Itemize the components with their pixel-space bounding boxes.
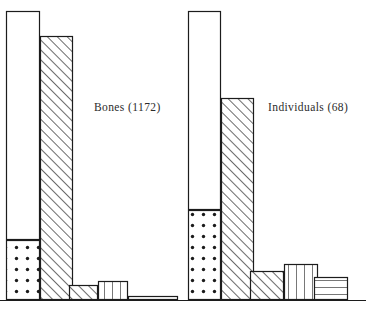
bar-segment-dotted — [7, 241, 40, 300]
bar-segment-diagonal-hatch — [41, 37, 73, 300]
bar-segment-vertical-stripe — [99, 282, 128, 300]
bar-segment-diagonal-hatch — [251, 272, 284, 300]
bar-chart-figure: Bones (1172) Individuals (68) — [0, 0, 366, 312]
group-label-bones: Bones (1172) — [94, 101, 161, 113]
bar-group-individuals — [189, 12, 348, 300]
bar-segment-diagonal-hatch — [70, 286, 98, 300]
bar-segment-horizontal-stripe — [129, 297, 178, 300]
bar-segment-vertical-stripe — [285, 265, 318, 300]
bar — [7, 12, 40, 300]
bar — [251, 272, 284, 300]
bar — [315, 278, 348, 300]
bars-layer — [7, 12, 348, 300]
bar-segment-open — [189, 12, 221, 210]
bar — [285, 265, 318, 300]
bar — [222, 99, 254, 300]
bar-chart-canvas — [0, 0, 366, 312]
bar-segment-diagonal-hatch — [222, 99, 254, 300]
bar — [99, 282, 128, 300]
bar — [41, 37, 73, 300]
group-label-individuals: Individuals (68) — [268, 101, 348, 113]
bar — [129, 297, 178, 300]
bar-segment-dotted — [189, 211, 221, 300]
bar — [70, 286, 98, 300]
bar-group-bones — [7, 12, 178, 300]
bar-segment-open — [7, 12, 40, 240]
bar — [189, 12, 221, 300]
bar-segment-horizontal-stripe — [315, 278, 348, 300]
